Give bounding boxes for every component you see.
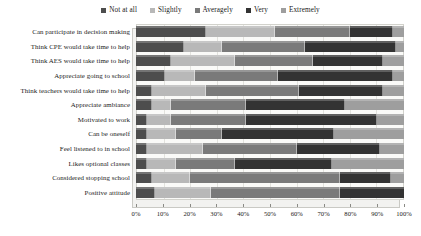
axis-tick <box>350 204 351 207</box>
axis-tick <box>163 204 164 207</box>
bar-segment <box>176 158 235 169</box>
bar-segment <box>246 99 345 110</box>
bar-segment <box>136 128 147 139</box>
bar-segment <box>377 114 404 125</box>
bar-segment <box>136 41 184 52</box>
value-axis: 0%10%20%30%40%50%60%70%80%90%100% <box>132 204 408 224</box>
bar-segment <box>147 158 176 169</box>
bar-segment <box>396 41 404 52</box>
bar-segment <box>136 114 147 125</box>
axis-tick-label: 100% <box>396 210 411 217</box>
axis-tick <box>297 204 298 207</box>
axis-tick-label: 60% <box>291 210 303 217</box>
bar-segment <box>147 128 176 139</box>
bar-segment <box>393 70 404 81</box>
category-label: Appreciate ambiance <box>0 99 134 110</box>
category-label: Appreciate going to school <box>0 70 134 81</box>
bar-segment <box>147 143 203 154</box>
bar-segment <box>165 70 194 81</box>
axis-tick-label: 30% <box>210 210 222 217</box>
bar-segment <box>235 158 331 169</box>
bar-segment <box>136 85 152 96</box>
bar-segment <box>299 85 382 96</box>
bar-series-container <box>136 26 404 198</box>
bar-segment <box>278 70 393 81</box>
axis-tick-label: 70% <box>318 210 330 217</box>
axis-tick <box>404 204 405 207</box>
bar-segment <box>203 143 297 154</box>
bar-segment <box>195 70 278 81</box>
category-label: Think teachers would take time to help <box>0 85 134 96</box>
legend-swatch-icon <box>150 8 155 13</box>
legend-item-extremely[interactable]: Extremely <box>281 6 320 14</box>
category-label: Likes optional classes <box>0 158 134 169</box>
category-label: Can be oneself <box>0 128 134 139</box>
bar-segment <box>211 187 340 198</box>
bar-row <box>136 85 404 96</box>
axis-tick-label: 90% <box>371 210 383 217</box>
bar-segment <box>297 143 380 154</box>
bar-segment <box>206 85 300 96</box>
axis-tick <box>377 204 378 207</box>
stacked-bar-chart: Not at allSlightlyAveragelyVeryExtremely… <box>0 0 421 236</box>
axis-tick-label: 80% <box>344 210 356 217</box>
bar-segment <box>136 26 206 37</box>
bar-segment <box>235 55 313 66</box>
bar-segment <box>380 143 404 154</box>
bar-row <box>136 143 404 154</box>
legend-item-not-at-all[interactable]: Not at all <box>101 6 137 14</box>
category-label: Motivated to work <box>0 114 134 125</box>
axis-tick <box>324 204 325 207</box>
bar-segment <box>171 114 246 125</box>
bar-row <box>136 158 404 169</box>
bar-segment <box>136 99 152 110</box>
legend-swatch-icon <box>101 8 106 13</box>
bar-segment <box>383 85 404 96</box>
bar-segment <box>171 99 246 110</box>
bar-segment <box>222 41 305 52</box>
legend-label: Slightly <box>158 6 182 14</box>
bar-segment <box>152 99 171 110</box>
bar-segment <box>171 55 235 66</box>
bar-segment <box>136 187 155 198</box>
bar-segment <box>136 55 171 66</box>
chart-legend: Not at allSlightlyAveragelyVeryExtremely <box>0 6 421 14</box>
category-label: Positive attitude <box>0 187 134 198</box>
axis-tick <box>270 204 271 207</box>
bar-segment <box>222 128 335 139</box>
bar-segment <box>350 26 393 37</box>
bar-segment <box>152 172 190 183</box>
bar-segment <box>136 143 147 154</box>
axis-tick <box>216 204 217 207</box>
axis-tick-label: 40% <box>237 210 249 217</box>
bar-segment <box>190 172 340 183</box>
category-axis-labels: Can participate in decision makingThink … <box>0 26 134 198</box>
legend-label: Very <box>254 6 268 14</box>
bar-row <box>136 41 404 52</box>
bar-row <box>136 187 404 198</box>
category-label: Considered stopping school <box>0 172 134 183</box>
bar-segment <box>305 41 396 52</box>
axis-tick-label: 50% <box>264 210 276 217</box>
category-label: Think CPE would take time to help <box>0 41 134 52</box>
axis-tick <box>190 204 191 207</box>
bar-segment <box>275 26 350 37</box>
bar-segment <box>136 172 152 183</box>
bar-segment <box>176 128 222 139</box>
legend-item-slightly[interactable]: Slightly <box>150 6 182 14</box>
category-label: Can participate in decision making <box>0 26 134 37</box>
category-label: Feel listened to in school <box>0 143 134 154</box>
legend-label: Averagely <box>203 6 233 14</box>
bar-segment <box>332 158 404 169</box>
bar-segment <box>246 114 377 125</box>
bar-segment <box>393 26 404 37</box>
legend-swatch-icon <box>281 8 286 13</box>
legend-item-very[interactable]: Very <box>246 6 268 14</box>
bar-segment <box>383 55 404 66</box>
bar-segment <box>313 55 383 66</box>
bar-segment <box>340 187 404 198</box>
legend-item-averagely[interactable]: Averagely <box>195 6 233 14</box>
bar-segment <box>152 85 206 96</box>
bar-row <box>136 99 404 110</box>
legend-swatch-icon <box>246 8 251 13</box>
